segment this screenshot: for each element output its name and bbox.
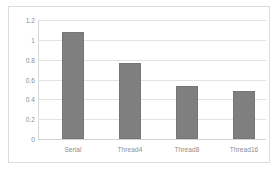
- bar-thread8[interactable]: [176, 86, 198, 139]
- x-tick-label-thread16: Thread16: [230, 146, 259, 153]
- y-tick-label: 0.8: [26, 56, 35, 63]
- y-tick-label: 0.4: [26, 96, 35, 103]
- bar-serial[interactable]: [62, 32, 84, 139]
- bar-thread4[interactable]: [119, 63, 141, 139]
- y-tick-label: 0.2: [26, 116, 35, 123]
- y-axis-tick-labels: 1.2 1 0.8 0.6 0.4 0.2 0: [9, 20, 35, 139]
- chart-frame: 1.2 1 0.8 0.6 0.4 0.2 0 Serial Thread4 T…: [8, 6, 270, 163]
- y-tick-label: 1.2: [26, 17, 35, 24]
- y-tick-label: 0: [31, 136, 35, 143]
- x-tick-label-thread4: Thread4: [118, 146, 143, 153]
- gridline-baseline: [38, 139, 266, 140]
- x-axis-tick-labels: Serial Thread4 Thread8 Thread16: [38, 146, 266, 160]
- x-tick-label-thread8: Thread8: [175, 146, 200, 153]
- gridline: [38, 20, 266, 21]
- y-tick-label: 1: [31, 36, 35, 43]
- bar-thread16[interactable]: [233, 91, 255, 139]
- y-tick-label: 0.6: [26, 76, 35, 83]
- plot-area: [38, 20, 266, 139]
- x-tick-label-serial: Serial: [64, 146, 81, 153]
